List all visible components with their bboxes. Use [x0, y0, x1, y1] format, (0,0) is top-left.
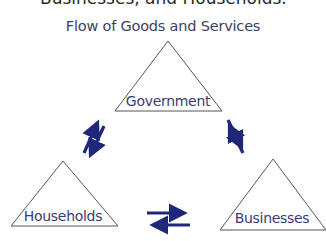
households-label: Households [13, 208, 113, 224]
gov-households-arrows-icon [84, 124, 104, 154]
businesses-label: Businesses [222, 210, 322, 226]
gov-businesses-arrows-icon [228, 120, 243, 153]
flow-diagram [0, 0, 326, 241]
government-label: Government [118, 93, 218, 109]
households-businesses-arrows-icon [147, 213, 190, 225]
